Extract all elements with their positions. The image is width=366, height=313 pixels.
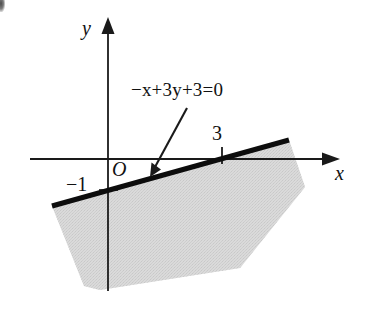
y-intercept-label: −1 xyxy=(66,174,87,194)
shaded-half-plane xyxy=(52,140,305,290)
x-axis-label: x xyxy=(335,163,344,183)
equation-text: −x+3y+3=0 xyxy=(131,79,223,100)
origin-label: O xyxy=(112,159,126,179)
y-axis-label: y xyxy=(82,18,91,38)
x-intercept-label: 3 xyxy=(212,123,222,143)
scan-artifact xyxy=(0,0,5,12)
leader-arrow xyxy=(150,108,187,177)
equation-label: −x+3y+3=0 xyxy=(131,80,223,99)
figure-canvas: −x+3y+3=0 y x O 3 −1 xyxy=(0,0,366,313)
diagram-svg xyxy=(0,0,366,313)
